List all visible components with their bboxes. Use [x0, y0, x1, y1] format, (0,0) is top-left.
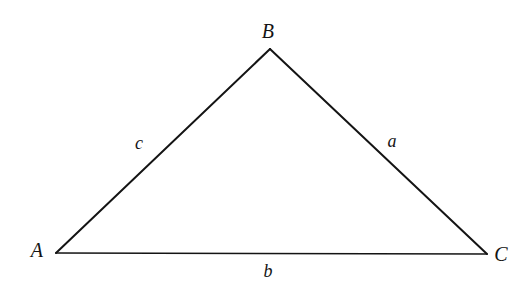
triangle-outline-svg — [0, 0, 528, 292]
side-label-c: c — [135, 134, 143, 152]
vertex-label-c: C — [494, 244, 508, 264]
side-label-a: a — [388, 132, 397, 150]
side-b-line — [56, 253, 487, 254]
side-a-line — [270, 49, 487, 254]
triangle-diagram: A B C a b c — [0, 0, 528, 292]
side-label-b: b — [264, 262, 273, 280]
side-c-line — [56, 49, 270, 253]
vertex-label-b: B — [262, 21, 274, 41]
vertex-label-a: A — [31, 240, 43, 260]
